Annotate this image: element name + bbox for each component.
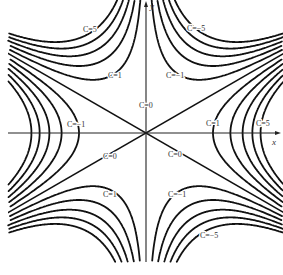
contour-label-cm1-left: C=−1: [67, 120, 85, 129]
x-axis-label: x: [271, 137, 276, 147]
contour-label-c1-right: C=1: [206, 119, 220, 128]
x-axis-arrow-icon: [275, 131, 281, 135]
contour-label-c0-vertical: C=0: [139, 101, 153, 110]
contour-label-c5-right: C=5: [256, 119, 270, 128]
contour-label-c0-lower-right: C=0: [168, 150, 182, 159]
contour-label-cm1-top-right: C=−1: [166, 71, 184, 80]
contour-label-c0-lower-left: C=0: [103, 152, 117, 161]
y-axis-arrow-icon: [144, 1, 148, 7]
y-axis-label: y: [149, 1, 154, 11]
contour-labels: C=5C=1C=−5C=−1C=0C=−1C=1C=5C=0C=0C=1C=−1…: [67, 24, 270, 240]
contour-label-cm5-bottom-right: C=−5: [200, 231, 218, 240]
contour-label-cm5-top-right: C=−5: [187, 24, 205, 33]
contour-label-c5-top-left: C=5: [83, 25, 97, 34]
contour-label-c1-bottom-left: C=1: [103, 190, 117, 199]
contour-label-cm1-bottom-right: C=−1: [168, 190, 186, 199]
contour-label-c1-top-left: C=1: [108, 71, 122, 80]
level-curves-diagram: x y C=5C=1C=−5C=−1C=0C=−1C=1C=5C=0C=0C=1…: [0, 0, 283, 275]
